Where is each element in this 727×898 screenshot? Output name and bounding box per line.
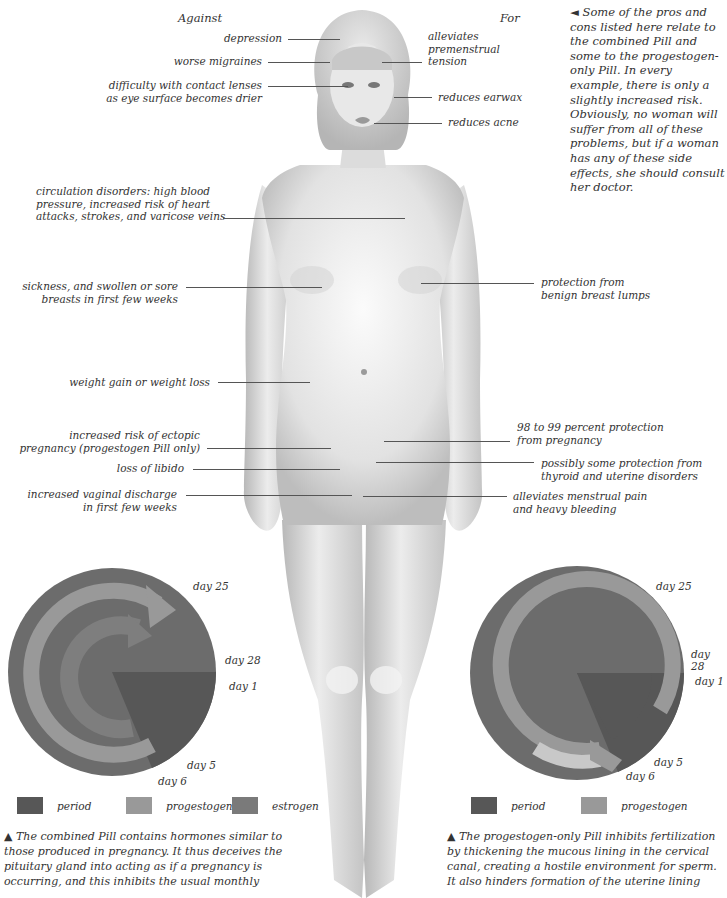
leader-line	[421, 283, 534, 284]
leader-line	[207, 448, 331, 449]
leader-line	[288, 39, 340, 40]
label-text: reduces earwax	[438, 91, 522, 103]
leader-line	[193, 469, 340, 470]
label-text: attacks, strokes, and varicose veins	[36, 210, 225, 223]
combined-pill-cycle-chart	[8, 568, 216, 776]
label-text: loss of libido	[117, 462, 184, 474]
label-text: increased vaginal discharge	[28, 488, 177, 501]
label-text: sickness, and swollen or sore	[22, 280, 178, 293]
label-text: worse migraines	[174, 55, 262, 67]
side-note: ◄ Some of the pros and cons listed here …	[570, 5, 725, 195]
leader-line	[384, 441, 510, 442]
legend-progestogen: progestogen	[126, 797, 233, 814]
against-label-breasts: sickness, and swollen or sore breasts in…	[22, 280, 178, 305]
estrogen-swatch	[232, 797, 258, 814]
label-text: tension	[428, 55, 500, 68]
legend-label: period	[511, 800, 545, 812]
torso	[262, 165, 464, 525]
against-label-circulation: circulation disorders: high blood pressu…	[36, 185, 225, 223]
legend-label: progestogen	[621, 800, 688, 812]
progestogen-pill-cycle-chart	[470, 566, 684, 780]
leader-line	[186, 287, 322, 288]
leader-line	[374, 123, 442, 124]
left-day-5: day 5	[187, 759, 216, 771]
against-label-ectopic: increased risk of ectopic pregnancy (pro…	[19, 429, 200, 454]
left-day-25: day 25	[193, 580, 229, 592]
legend-label: period	[57, 800, 91, 812]
label-text: and heavy bleeding	[513, 503, 647, 516]
against-label-weight: weight gain or weight loss	[69, 376, 210, 389]
legend-period: period	[17, 797, 91, 814]
for-label-menstrual-pain: alleviates menstrual pain and heavy blee…	[513, 490, 647, 515]
label-text: premenstrual	[428, 43, 500, 56]
for-header: For	[500, 11, 520, 25]
for-label-pregnancy-protection: 98 to 99 percent protection from pregnan…	[517, 421, 664, 446]
against-label-depression: depression	[224, 32, 282, 45]
leader-line	[268, 86, 348, 87]
legend-label: progestogen	[166, 800, 233, 812]
label-text: benign breast lumps	[541, 289, 650, 302]
leader-line	[186, 495, 352, 496]
label-text: breasts in first few weeks	[22, 293, 178, 306]
legend-progestogen-right: progestogen	[581, 797, 688, 814]
leader-line	[363, 496, 507, 497]
label-text: from pregnancy	[517, 434, 664, 447]
left-day-1: day 1	[229, 680, 258, 692]
period-swatch	[17, 797, 43, 814]
left-day-6: day 6	[158, 775, 187, 787]
for-label-thyroid: possibly some protection from thyroid an…	[541, 457, 702, 482]
progestogen-swatch	[126, 797, 152, 814]
right-day-5: day 5	[654, 756, 683, 768]
progestogen-swatch	[581, 797, 607, 814]
leader-line	[218, 382, 310, 383]
label-text: depression	[224, 32, 282, 44]
label-text: alleviates	[428, 30, 500, 43]
leader-line	[382, 62, 422, 63]
label-text: possibly some protection from	[541, 457, 702, 470]
label-text: circulation disorders: high blood	[36, 185, 225, 198]
against-header: Against	[178, 11, 222, 25]
label-text: reduces acne	[448, 116, 519, 128]
label-text: thyroid and uterine disorders	[541, 470, 702, 483]
label-text: difficulty with contact lenses	[106, 79, 262, 92]
legend-label: estrogen	[272, 800, 319, 812]
label-text: alleviates menstrual pain	[513, 490, 647, 503]
against-label-migraines: worse migraines	[174, 55, 262, 68]
label-text: in first few weeks	[28, 501, 177, 514]
against-label-discharge: increased vaginal discharge in first few…	[28, 488, 177, 513]
right-day-6: day 6	[626, 770, 655, 782]
label-text: protection from	[541, 276, 650, 289]
for-label-breast-lumps: protection from benign breast lumps	[541, 276, 650, 301]
legs	[282, 520, 446, 898]
for-label-acne: reduces acne	[448, 116, 519, 129]
label-text: as eye surface becomes drier	[106, 92, 262, 105]
for-label-pms: alleviates premenstrual tension	[428, 30, 500, 68]
head	[314, 10, 410, 150]
label-text: increased risk of ectopic	[19, 429, 200, 442]
left-day-28: day 28	[225, 654, 261, 666]
against-label-contact-lenses: difficulty with contact lenses as eye su…	[106, 79, 262, 104]
leader-line	[394, 97, 432, 98]
right-day-25: day 25	[656, 580, 692, 592]
label-text: 98 to 99 percent protection	[517, 421, 664, 434]
label-text: pregnancy (progestogen Pill only)	[19, 442, 200, 455]
combined-pill-caption: ▲ The combined Pill contains hormones si…	[4, 829, 304, 889]
legend-period-right: period	[471, 797, 545, 814]
leader-line	[223, 218, 405, 219]
right-day-1: day 1	[695, 675, 724, 687]
for-label-earwax: reduces earwax	[438, 91, 522, 104]
progestogen-pill-caption: ▲ The progestogen-only Pill inhibits fer…	[447, 829, 727, 889]
period-swatch	[471, 797, 497, 814]
against-label-libido: loss of libido	[117, 462, 184, 475]
label-text: pressure, increased risk of heart	[36, 198, 225, 211]
label-text: weight gain or weight loss	[69, 376, 210, 388]
right-day-28: day 28	[691, 648, 725, 672]
legend-estrogen: estrogen	[232, 797, 319, 814]
leader-line	[268, 62, 330, 63]
leader-line	[376, 462, 534, 463]
